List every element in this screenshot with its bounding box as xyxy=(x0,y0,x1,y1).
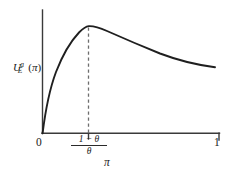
utility-curve xyxy=(43,26,215,133)
y-axis-label-argument-group: (π) xyxy=(28,61,41,73)
x-tick-label-zero: 0 xyxy=(36,137,42,149)
y-axis-label-superscript: a xyxy=(20,61,24,69)
plot-svg xyxy=(0,0,230,177)
paren-close: ) xyxy=(37,61,41,73)
y-axis-label: UEa(π) xyxy=(13,61,41,75)
figure-container: UEa(π) 0 1 − θ θ 1 π xyxy=(0,0,230,177)
fraction-numerator: 1 − θ xyxy=(71,135,107,146)
x-tick-label-one: 1 xyxy=(214,137,220,149)
fraction-denominator: θ xyxy=(71,146,107,156)
x-tick-label-peak-fraction: 1 − θ θ xyxy=(71,135,107,156)
x-axis-label: π xyxy=(104,157,110,169)
